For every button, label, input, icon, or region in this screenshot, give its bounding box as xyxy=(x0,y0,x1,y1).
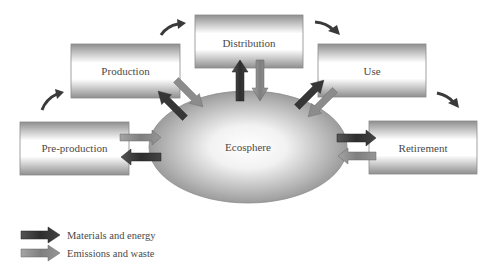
legend-item-materials-energy: Materials and energy xyxy=(21,227,156,243)
stage-label: Production xyxy=(101,65,150,77)
flow-arrow-use-to-retirement xyxy=(437,93,459,108)
stage-pre-production: Pre-production xyxy=(20,122,129,175)
light-arrow-icon xyxy=(21,245,60,261)
stage-production: Production xyxy=(71,44,180,98)
flow-arrow-production-to-distribution xyxy=(161,19,186,35)
legend-label: Materials and energy xyxy=(67,230,156,241)
stage-label: Distribution xyxy=(222,37,276,49)
legend-item-emissions-waste: Emissions and waste xyxy=(21,245,155,261)
stage-label: Pre-production xyxy=(42,142,108,154)
legend-label: Emissions and waste xyxy=(67,248,155,259)
legend: Materials and energy Emissions and waste xyxy=(21,227,156,261)
ecosphere-label: Ecosphere xyxy=(225,141,271,153)
life-cycle-diagram: Ecosphere Pre-production Production Dist… xyxy=(0,0,495,276)
stage-label: Use xyxy=(363,65,380,77)
flow-arrow-preproduction-to-production xyxy=(42,89,64,110)
dark-arrow-icon xyxy=(21,227,60,243)
flow-arrow-distribution-to-use xyxy=(315,22,340,35)
stage-distribution: Distribution xyxy=(195,15,303,68)
stage-retirement: Retirement xyxy=(369,121,477,174)
stage-label: Retirement xyxy=(399,142,448,154)
